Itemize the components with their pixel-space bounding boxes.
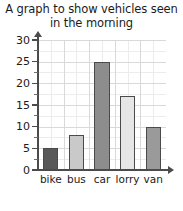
- bar-bus: [69, 135, 84, 170]
- y-tick-30: [32, 39, 38, 41]
- x-label-lorry: lorry: [115, 173, 141, 185]
- y-tick-20: [32, 83, 38, 85]
- y-minor-tick: [34, 94, 38, 95]
- plot-area: [38, 40, 166, 170]
- x-axis-line: [37, 169, 170, 171]
- y-tick-15: [32, 104, 38, 106]
- y-tick-label-0: 0: [4, 165, 30, 176]
- x-label-van: van: [140, 173, 166, 185]
- y-tick-label-5: 5: [4, 143, 30, 154]
- y-minor-tick: [34, 72, 38, 73]
- y-axis-arrow-icon: [34, 31, 42, 37]
- bar-chart: A graph to show vehicles seen in the mor…: [0, 0, 183, 211]
- bar-van: [146, 127, 161, 170]
- y-tick-10: [32, 126, 38, 128]
- y-tick-25: [32, 61, 38, 63]
- y-minor-tick: [34, 50, 38, 51]
- x-label-car: car: [89, 173, 115, 185]
- x-axis-arrow-icon: [168, 166, 174, 174]
- y-tick-label-15: 15: [4, 100, 30, 111]
- bar-bike: [43, 148, 58, 170]
- y-tick-0: [32, 169, 38, 171]
- bar-car: [94, 62, 109, 170]
- chart-title: A graph to show vehicles seen in the mor…: [0, 2, 183, 30]
- y-tick-label-20: 20: [4, 78, 30, 89]
- y-minor-tick: [34, 137, 38, 138]
- y-tick-label-10: 10: [4, 121, 30, 132]
- y-minor-tick: [34, 159, 38, 160]
- bar-lorry: [120, 96, 135, 170]
- y-tick-label-30: 30: [4, 35, 30, 46]
- x-label-bike: bike: [38, 173, 64, 185]
- x-label-bus: bus: [64, 173, 90, 185]
- y-tick-5: [32, 148, 38, 150]
- y-tick-label-25: 25: [4, 56, 30, 67]
- y-minor-tick: [34, 115, 38, 116]
